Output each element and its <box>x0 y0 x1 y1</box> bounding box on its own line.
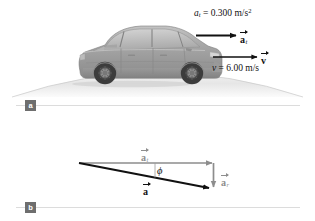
vector-label-b-a-total: a <box>143 182 148 198</box>
at-value: 0.300 <box>211 8 232 18</box>
figure-graphics <box>0 0 315 221</box>
vector-letter-v: v <box>261 56 266 66</box>
at-unit-exponent: 2 <box>248 7 251 14</box>
vector-label-v: v <box>261 51 266 67</box>
vector-subscript-r: r <box>227 181 230 188</box>
velocity-equation: v = 6.00 m/s <box>212 64 259 74</box>
vector-letter-a: a <box>240 35 245 45</box>
vector-label-b-a-tangential: at <box>141 148 148 164</box>
vector-letter-a: a <box>141 153 146 163</box>
v-unit: m/s <box>245 63 259 73</box>
physics-figure: at = 0.300 m/s2 at v v = 6.00 m/s a at a… <box>0 0 315 221</box>
vector-label-b-a-radial: ar <box>221 173 229 189</box>
tangential-acceleration-equation: at = 0.300 m/s2 <box>194 8 251 18</box>
vector-letter-a: a <box>221 178 226 188</box>
v-value: 6.00 <box>226 63 243 73</box>
v-symbol: v <box>212 63 216 73</box>
vector-subscript-t: t <box>147 156 149 163</box>
at-subscript: t <box>199 11 201 18</box>
at-equals: = <box>203 8 208 18</box>
vector-subscript-t: t <box>246 38 248 45</box>
panel-badge-b: b <box>25 202 36 213</box>
angle-label-phi: ϕ <box>157 166 162 177</box>
at-unit: m/s <box>234 8 248 18</box>
vector-label-a-tangential: at <box>240 30 247 46</box>
v-equals: = <box>219 63 224 73</box>
vector-letter-a: a <box>143 187 148 197</box>
panel-badge-a: a <box>25 100 36 111</box>
